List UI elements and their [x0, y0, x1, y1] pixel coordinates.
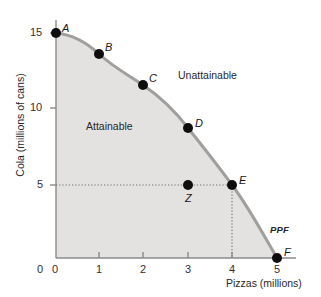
point-label-f: F: [284, 247, 291, 258]
data-point-c: [138, 80, 148, 90]
y-tick-label-5: 5: [37, 179, 43, 190]
data-point-e: [227, 180, 237, 190]
data-point-z: [183, 180, 193, 190]
ppf-chart: 15 10 5 0 0 1 2 3 4 5 Cola (millions of …: [0, 0, 321, 297]
x-tick-label-3: 3: [185, 264, 191, 275]
attainable-area: [56, 33, 277, 258]
x-tick-label-4: 4: [229, 264, 235, 275]
x-tick-label-2: 2: [140, 264, 146, 275]
x-tick-label-5: 5: [274, 264, 280, 275]
x-axis-title: Pizzas (millions): [226, 278, 302, 289]
y-tick-label-15: 15: [30, 27, 42, 38]
annotation-attainable: Attainable: [86, 121, 133, 132]
annotation-unattainable: Unattainable: [178, 70, 237, 81]
point-label-z: Z: [185, 193, 192, 204]
y-tick-label-0: 0: [37, 264, 43, 275]
point-label-a: A: [62, 23, 69, 34]
y-axis-title: Cola (millions of cans): [14, 73, 26, 176]
data-point-b: [94, 49, 104, 59]
data-point-d: [183, 123, 193, 133]
point-label-e: E: [239, 175, 246, 186]
y-tick-label-10: 10: [30, 102, 42, 113]
point-label-b: B: [105, 42, 112, 53]
point-label-c: C: [149, 73, 157, 84]
plot-area: [0, 0, 321, 297]
point-label-d: D: [195, 118, 203, 129]
annotation-ppf: PPF: [270, 225, 289, 235]
data-point-a: [51, 28, 61, 38]
x-tick-label-0: 0: [52, 264, 58, 275]
x-tick-label-1: 1: [96, 264, 102, 275]
data-point-f: [272, 253, 282, 263]
